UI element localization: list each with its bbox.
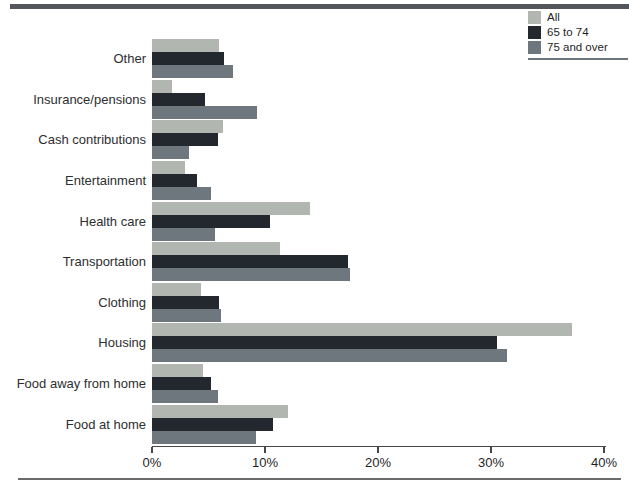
bar-65-to-74: [152, 93, 205, 106]
axis-tick-label: 20%: [365, 455, 391, 470]
bar-all: [152, 161, 185, 174]
category-label: Food at home: [0, 405, 146, 446]
bar-group: [152, 120, 223, 161]
bar-65-to-74: [152, 377, 211, 390]
bar-all: [152, 283, 201, 296]
bar-group: [152, 364, 218, 405]
category-row-housing: Housing: [0, 323, 629, 364]
bar-all: [152, 80, 172, 93]
bar-group: [152, 283, 221, 324]
bar-75-and-over: [152, 268, 350, 281]
bar-65-to-74: [152, 52, 224, 65]
axis-tick: [151, 447, 153, 453]
category-label: Housing: [0, 323, 146, 364]
bar-all: [152, 242, 280, 255]
bar-all: [152, 364, 203, 377]
axis-tick-label: 0%: [143, 455, 162, 470]
axis-tick: [490, 447, 492, 453]
category-label: Insurance/pensions: [0, 80, 146, 121]
bar-all: [152, 323, 572, 336]
bottom-divider: [18, 478, 621, 480]
top-divider: [10, 4, 629, 9]
bar-75-and-over: [152, 146, 189, 159]
legend-swatch-all-icon: [528, 11, 541, 24]
legend-item-65-to-74: 65 to 74: [528, 25, 629, 39]
bar-all: [152, 39, 219, 52]
bar-group: [152, 242, 350, 283]
axis-tick: [264, 447, 266, 453]
category-label: Food away from home: [0, 364, 146, 405]
axis-tick-label: 40%: [591, 455, 617, 470]
bar-group: [152, 80, 257, 121]
category-label: Other: [0, 39, 146, 80]
bar-group: [152, 405, 288, 446]
bar-65-to-74: [152, 418, 273, 431]
bar-65-to-74: [152, 296, 219, 309]
category-label: Health care: [0, 202, 146, 243]
bar-group: [152, 202, 310, 243]
category-row-clothing: Clothing: [0, 283, 629, 324]
bar-all: [152, 120, 223, 133]
bar-75-and-over: [152, 431, 256, 444]
axis-tick: [603, 447, 605, 453]
category-row-other: Other: [0, 39, 629, 80]
category-label: Clothing: [0, 283, 146, 324]
bar-group: [152, 323, 572, 364]
category-label: Transportation: [0, 242, 146, 283]
bar-75-and-over: [152, 65, 233, 78]
axis-tick-label: 10%: [252, 455, 278, 470]
bar-75-and-over: [152, 187, 211, 200]
category-label: Entertainment: [0, 161, 146, 202]
chart-canvas: All 65 to 74 75 and over OtherInsurance/…: [0, 0, 629, 490]
bar-65-to-74: [152, 133, 218, 146]
bar-65-to-74: [152, 336, 497, 349]
category-row-insurance-pensions: Insurance/pensions: [0, 80, 629, 121]
bar-75-and-over: [152, 309, 221, 322]
bar-65-to-74: [152, 174, 197, 187]
bar-75-and-over: [152, 390, 218, 403]
category-row-entertainment: Entertainment: [0, 161, 629, 202]
category-row-health-care: Health care: [0, 202, 629, 243]
category-row-food-away-from-home: Food away from home: [0, 364, 629, 405]
bar-group: [152, 161, 211, 202]
legend-label-65-to-74: 65 to 74: [547, 25, 589, 39]
bar-75-and-over: [152, 349, 507, 362]
bar-all: [152, 405, 288, 418]
bar-chart: OtherInsurance/pensionsCash contribution…: [0, 39, 629, 445]
category-row-cash-contributions: Cash contributions: [0, 120, 629, 161]
category-row-food-at-home: Food at home: [0, 405, 629, 446]
x-axis: 0%10%20%30%40%: [152, 446, 606, 447]
axis-tick-label: 30%: [478, 455, 504, 470]
bar-75-and-over: [152, 106, 257, 119]
bar-65-to-74: [152, 255, 348, 268]
axis-tick: [377, 447, 379, 453]
bar-65-to-74: [152, 215, 270, 228]
bar-75-and-over: [152, 228, 215, 241]
legend-label-all: All: [547, 10, 560, 24]
legend-item-all: All: [528, 10, 629, 24]
category-row-transportation: Transportation: [0, 242, 629, 283]
legend-swatch-65-to-74-icon: [528, 26, 541, 39]
category-label: Cash contributions: [0, 120, 146, 161]
bar-group: [152, 39, 233, 80]
bar-all: [152, 202, 310, 215]
